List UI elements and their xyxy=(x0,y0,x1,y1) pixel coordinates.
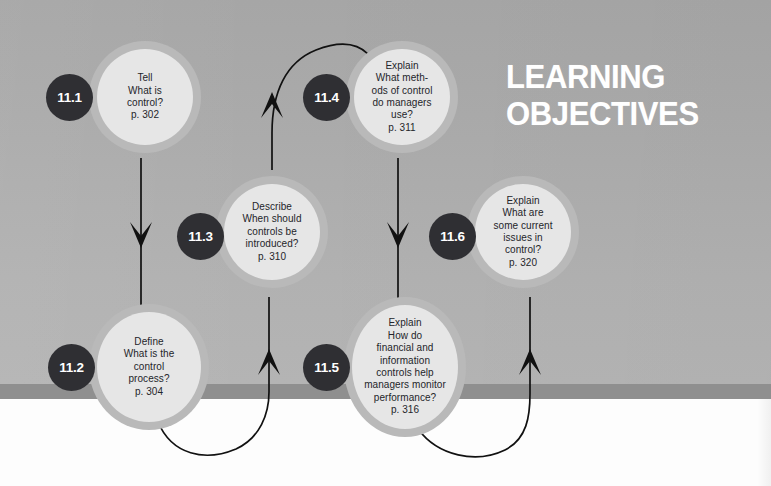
objective-node-11-5[interactable]: Explain How do financial and information… xyxy=(344,297,466,437)
objective-badge-11-6[interactable]: 11.6 xyxy=(429,213,476,260)
objective-text-11-4: Explain What meth- ods of control do man… xyxy=(366,60,439,134)
objective-text-11-6: Explain What are some current issues in … xyxy=(487,195,558,269)
objective-node-11-4[interactable]: Explain What meth- ods of control do man… xyxy=(346,41,458,153)
objective-node-11-1[interactable]: Tell What is control? p. 302 xyxy=(89,41,201,153)
objective-node-11-3[interactable]: Describe When should controls be introdu… xyxy=(216,176,328,288)
objective-node-11-1-inner: Tell What is control? p. 302 xyxy=(97,49,193,145)
objective-text-11-2: Define What is the control process? p. 3… xyxy=(118,336,181,398)
objective-text-11-3: Describe When should controls be introdu… xyxy=(236,201,307,263)
objective-node-11-3-inner: Describe When should controls be introdu… xyxy=(224,184,320,280)
connector-11-1-to-11-2 xyxy=(130,158,152,307)
objective-node-11-2-inner: Define What is the control process? p. 3… xyxy=(97,312,201,422)
objective-badge-11-5[interactable]: 11.5 xyxy=(303,344,350,391)
learning-objectives-figure: Tell What is control? p. 302 11.1 Explai… xyxy=(0,0,771,486)
objective-text-11-1: Tell What is control? p. 302 xyxy=(121,72,169,122)
objective-node-11-6-inner: Explain What are some current issues in … xyxy=(475,184,571,280)
objective-text-11-5: Explain How do financial and information… xyxy=(358,317,452,416)
page-title: LEARNINGOBJECTIVES xyxy=(506,58,699,132)
objective-badge-11-4[interactable]: 11.4 xyxy=(303,74,350,121)
objective-node-11-4-inner: Explain What meth- ods of control do man… xyxy=(354,49,450,145)
objective-node-11-2[interactable]: Define What is the control process? p. 3… xyxy=(89,304,209,430)
objective-node-11-5-inner: Explain How do financial and information… xyxy=(352,305,458,429)
objective-badge-11-3[interactable]: 11.3 xyxy=(177,213,224,260)
objective-node-11-6[interactable]: Explain What are some current issues in … xyxy=(467,176,579,288)
page-title-line-2: OBJECTIVES xyxy=(506,95,699,132)
objective-badge-11-2[interactable]: 11.2 xyxy=(48,344,95,391)
connector-11-4-to-11-5 xyxy=(387,158,409,307)
objective-badge-11-1[interactable]: 11.1 xyxy=(46,74,93,121)
page-title-line-1: LEARNING xyxy=(506,58,665,95)
